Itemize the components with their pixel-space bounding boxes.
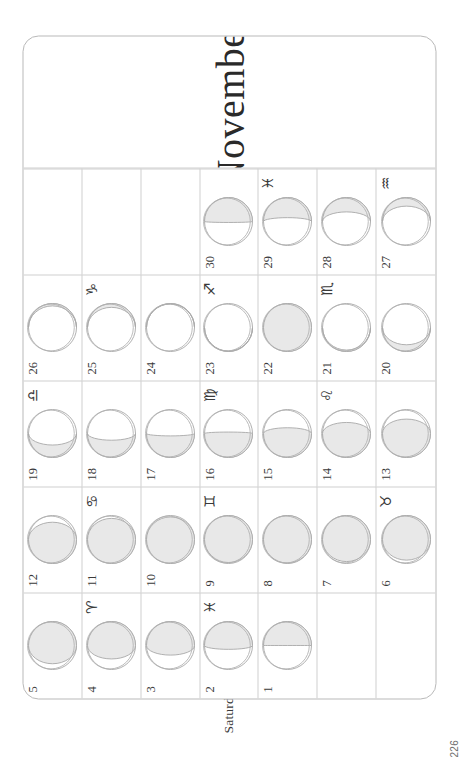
calendar-day-cell-7[interactable]: 7 <box>317 486 376 592</box>
moon-phase-icon <box>202 196 254 248</box>
moon-phase-icon <box>320 514 372 566</box>
day-number: 3 <box>144 686 157 692</box>
month-title: November <box>206 36 253 168</box>
month-title-cell: November <box>23 36 435 168</box>
zodiac-cancer-icon: ♋ <box>84 494 99 507</box>
calendar-empty-cell <box>82 168 141 274</box>
moon-phase-icon <box>261 514 313 566</box>
calendar-day-cell-19[interactable]: 19♎ <box>23 380 82 486</box>
calendar-day-cell-2[interactable]: 2♓ <box>200 592 259 698</box>
zodiac-capricorn-icon: ♑ <box>84 282 99 295</box>
calendar-day-cell-29[interactable]: 29♓ <box>258 168 317 274</box>
calendar-day-cell-8[interactable]: 8 <box>258 486 317 592</box>
calendar-page: 226 SaturdayFridayThursdayWednesdayTuesd… <box>0 0 469 771</box>
calendar-day-cell-4[interactable]: 4♈ <box>82 592 141 698</box>
moon-phase-icon <box>320 408 372 460</box>
day-number: 30 <box>203 256 216 269</box>
calendar-day-cell-24[interactable]: 24 <box>141 274 200 380</box>
calendar-day-cell-9[interactable]: 9♊ <box>200 486 259 592</box>
calendar-day-cell-6[interactable]: 6♉ <box>376 486 435 592</box>
moon-phase-icon <box>85 302 137 354</box>
day-number: 2 <box>203 686 216 692</box>
moon-phase-icon <box>261 620 313 672</box>
zodiac-leo-icon: ♌ <box>319 388 334 401</box>
calendar-grid: 51219♎264♈11♋1825♑31017242♓9♊16♍23♐30181… <box>23 36 435 698</box>
zodiac-gemini-icon: ♊ <box>202 494 217 507</box>
calendar-day-cell-17[interactable]: 17 <box>141 380 200 486</box>
moon-phase-icon <box>26 514 78 566</box>
moon-phase-icon <box>261 302 313 354</box>
day-number: 1 <box>261 686 274 692</box>
calendar-empty-cell <box>23 168 82 274</box>
zodiac-virgo-icon: ♍ <box>202 388 217 401</box>
calendar-day-cell-27[interactable]: 27♒ <box>376 168 435 274</box>
calendar-day-cell-5[interactable]: 5 <box>23 592 82 698</box>
moon-phase-icon <box>380 514 432 566</box>
calendar-day-cell-25[interactable]: 25♑ <box>82 274 141 380</box>
zodiac-aries-icon: ♈ <box>84 600 99 613</box>
calendar-day-cell-30[interactable]: 30 <box>200 168 259 274</box>
calendar-day-cell-23[interactable]: 23♐ <box>200 274 259 380</box>
calendar-day-cell-12[interactable]: 12 <box>23 486 82 592</box>
moon-phase-icon <box>26 302 78 354</box>
moon-phase-icon <box>320 196 372 248</box>
day-number: 15 <box>261 468 274 481</box>
day-number: 21 <box>320 362 333 375</box>
calendar-empty-cell <box>317 592 376 698</box>
calendar-day-cell-14[interactable]: 14♌ <box>317 380 376 486</box>
page-number: 226 <box>448 739 459 757</box>
calendar-day-cell-13[interactable]: 13 <box>376 380 435 486</box>
calendar-day-cell-28[interactable]: 28 <box>317 168 376 274</box>
moon-phase-icon <box>144 408 196 460</box>
calendar-frame: 51219♎264♈11♋1825♑31017242♓9♊16♍23♐30181… <box>22 35 436 699</box>
moon-phase-icon <box>380 302 432 354</box>
day-number: 19 <box>26 468 39 481</box>
calendar-day-cell-20[interactable]: 20 <box>376 274 435 380</box>
calendar-day-cell-10[interactable]: 10 <box>141 486 200 592</box>
moon-phase-icon <box>202 514 254 566</box>
day-number: 4 <box>85 686 98 692</box>
weekday-label-column: SaturdayFridayThursdayWednesdayTuesdayMo… <box>22 699 434 733</box>
day-number: 26 <box>26 362 39 375</box>
calendar-day-cell-1[interactable]: 1 <box>258 592 317 698</box>
moon-phase-icon <box>85 514 137 566</box>
zodiac-pisces-icon: ♓ <box>202 600 217 613</box>
zodiac-pisces-icon: ♓ <box>260 176 275 189</box>
day-number: 10 <box>144 574 157 587</box>
day-number: 12 <box>26 574 39 587</box>
calendar-day-cell-3[interactable]: 3 <box>141 592 200 698</box>
moon-phase-icon <box>261 196 313 248</box>
calendar-day-cell-22[interactable]: 22 <box>258 274 317 380</box>
day-number: 5 <box>26 686 39 692</box>
moon-phase-icon <box>144 302 196 354</box>
calendar-day-cell-16[interactable]: 16♍ <box>200 380 259 486</box>
calendar-day-cell-15[interactable]: 15 <box>258 380 317 486</box>
day-number: 14 <box>320 468 333 481</box>
moon-phase-icon <box>85 408 137 460</box>
calendar-empty-cell <box>141 168 200 274</box>
day-number: 29 <box>261 256 274 269</box>
day-number: 28 <box>320 256 333 269</box>
zodiac-aquarius-icon: ♒ <box>378 176 393 189</box>
day-number: 24 <box>144 362 157 375</box>
calendar-day-cell-26[interactable]: 26 <box>23 274 82 380</box>
day-number: 23 <box>203 362 216 375</box>
day-number: 16 <box>203 468 216 481</box>
day-number: 20 <box>379 362 392 375</box>
moon-phase-icon <box>144 620 196 672</box>
moon-phase-icon <box>26 408 78 460</box>
moon-phase-icon <box>202 302 254 354</box>
zodiac-sagittarius-icon: ♐ <box>202 282 217 295</box>
zodiac-scorpio-icon: ♏ <box>319 282 334 295</box>
moon-phase-icon <box>144 514 196 566</box>
day-number: 27 <box>379 256 392 269</box>
calendar-day-cell-21[interactable]: 21♏ <box>317 274 376 380</box>
moon-phase-icon <box>202 620 254 672</box>
calendar-empty-cell <box>376 592 435 698</box>
calendar-day-cell-18[interactable]: 18 <box>82 380 141 486</box>
day-number: 17 <box>144 468 157 481</box>
day-number: 22 <box>261 362 274 375</box>
moon-phase-icon <box>380 408 432 460</box>
calendar-day-cell-11[interactable]: 11♋ <box>82 486 141 592</box>
day-number: 25 <box>85 362 98 375</box>
